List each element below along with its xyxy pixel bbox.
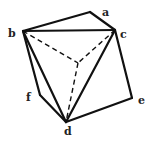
vertex-label-d: d xyxy=(64,126,72,137)
dashed-edge-c-o xyxy=(78,30,115,63)
edge-b-c xyxy=(23,30,115,31)
edge-f-d xyxy=(40,95,66,122)
polyhedron-diagram xyxy=(0,0,149,142)
vertex-label-b: b xyxy=(8,28,16,39)
edge-b-a xyxy=(23,12,90,31)
dashed-edge-o-d xyxy=(66,63,78,122)
vertex-label-e: e xyxy=(138,95,145,106)
edge-c-d xyxy=(66,30,115,122)
vertex-label-c: c xyxy=(120,29,127,40)
edge-b-d xyxy=(23,31,66,122)
vertex-label-a: a xyxy=(102,7,109,18)
vertex-label-f: f xyxy=(26,92,31,103)
